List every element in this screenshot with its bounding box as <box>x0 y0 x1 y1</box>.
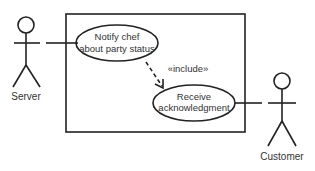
actor-label-customer: Customer <box>260 151 304 162</box>
actor-head <box>274 73 290 89</box>
actor-head <box>18 17 34 33</box>
actor-customer[interactable]: Customer <box>260 73 304 162</box>
actor-server[interactable]: Server <box>11 17 41 102</box>
include-label: «include» <box>168 63 209 74</box>
actor-leg-right <box>282 121 296 146</box>
use-case-receive[interactable]: Receive acknowledgment <box>153 85 235 121</box>
actor-label-server: Server <box>11 91 41 102</box>
include-dependency: «include» <box>146 62 208 88</box>
actor-leg-left <box>13 65 26 87</box>
use-case-notify[interactable]: Notify chef about party status <box>76 25 158 61</box>
actor-leg-left <box>268 121 282 146</box>
use-case-receive-line2: acknowledgment <box>158 102 230 113</box>
use-case-diagram: Server Notify chef about party status «i… <box>0 0 315 171</box>
include-line <box>146 62 162 86</box>
use-case-receive-line1: Receive <box>177 91 211 102</box>
system-boundary <box>66 14 245 132</box>
use-case-notify-line1: Notify chef <box>95 31 140 42</box>
actor-leg-right <box>26 65 40 87</box>
use-case-notify-line2: about party status <box>79 43 155 54</box>
